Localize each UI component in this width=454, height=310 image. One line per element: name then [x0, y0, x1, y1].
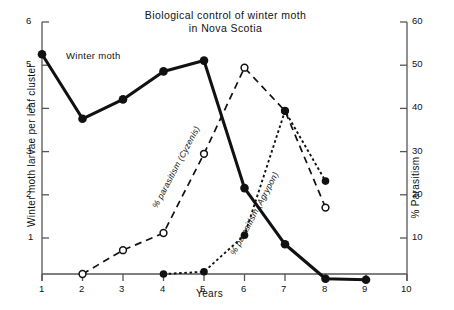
- chart-figure: Biological control of winter moth in Nov…: [0, 0, 454, 310]
- series-markers-cyzenis: [79, 64, 329, 277]
- axis-right: [400, 22, 407, 281]
- y-left-tick-2: 2: [26, 188, 31, 199]
- x-tick-2: 2: [79, 283, 84, 294]
- x-tick-8: 8: [322, 283, 327, 294]
- series-markers-winter-moth: [38, 50, 371, 284]
- x-tick-1: 1: [39, 283, 44, 294]
- y-left-tick-5: 5: [26, 58, 31, 69]
- y-right-tick-20: 20: [412, 188, 423, 199]
- chart-plot-area: [0, 0, 454, 310]
- x-tick-10: 10: [401, 283, 412, 294]
- series-label-winter-moth: Winter moth: [66, 50, 121, 61]
- chart-title: Biological control of winter moth in Nov…: [118, 9, 333, 35]
- y-left-tick-1: 1: [28, 231, 33, 242]
- series-line-winter-moth: [42, 54, 366, 280]
- y-right-tick-50: 50: [412, 58, 423, 69]
- x-tick-7: 7: [281, 283, 286, 294]
- y-right-tick-60: 60: [412, 15, 423, 26]
- y-left-tick-6: 6: [26, 15, 31, 26]
- y-right-tick-40: 40: [412, 101, 423, 112]
- x-tick-3: 3: [119, 283, 124, 294]
- y-right-tick-30: 30: [412, 145, 423, 156]
- x-tick-6: 6: [241, 283, 246, 294]
- x-tick-5: 5: [200, 283, 205, 294]
- y-left-tick-3: 3: [26, 145, 31, 156]
- x-tick-9: 9: [362, 283, 367, 294]
- x-tick-4: 4: [160, 283, 165, 294]
- y-right-tick-10: 10: [412, 231, 423, 242]
- y-left-tick-4: 4: [26, 101, 31, 112]
